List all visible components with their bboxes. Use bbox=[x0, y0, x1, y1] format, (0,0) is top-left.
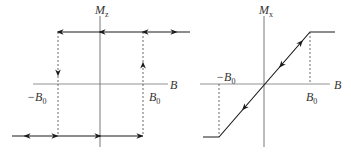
x-axis-label: B bbox=[170, 78, 178, 92]
magnetization-diagrams: Mz B −B0 B0 Mx B −B0 B0 bbox=[0, 0, 351, 154]
linear-magnetization-diagram: Mx B −B0 B0 bbox=[200, 3, 342, 147]
x-axis-label: B bbox=[334, 78, 342, 92]
arrow-down-left-icon bbox=[243, 99, 252, 109]
pos-b0-label: B0 bbox=[149, 90, 160, 106]
neg-b0-label: −B0 bbox=[27, 90, 46, 106]
hysteresis-diagram: Mz B −B0 B0 bbox=[12, 3, 190, 147]
arrow-down-left-icon bbox=[280, 53, 292, 67]
pos-b0-label: B0 bbox=[306, 90, 317, 106]
magnetization-curve bbox=[203, 32, 335, 137]
y-axis-label: Mx bbox=[258, 3, 273, 19]
y-axis-label: Mz bbox=[94, 3, 109, 19]
neg-b0-label: −B0 bbox=[216, 70, 235, 86]
